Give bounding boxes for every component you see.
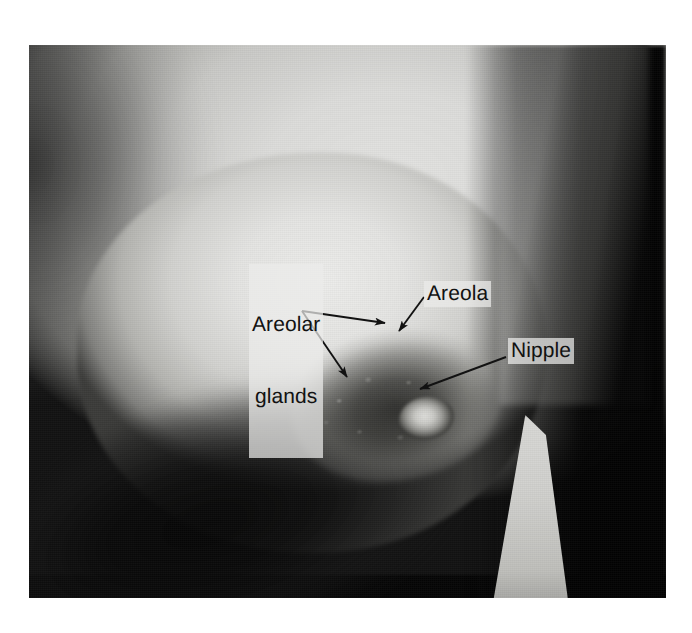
- label-areola: Areola: [424, 281, 491, 307]
- label-nipple: Nipple: [508, 338, 574, 364]
- figure-root: Areolar glands Areola Nipple: [0, 0, 692, 633]
- nipple-region: [399, 397, 457, 445]
- label-areolar-glands: Areolar glands: [249, 264, 323, 458]
- label-areolar-glands-line1: Areolar: [252, 313, 320, 337]
- anatomical-photograph: [29, 45, 666, 598]
- label-areolar-glands-line2: glands: [252, 385, 320, 409]
